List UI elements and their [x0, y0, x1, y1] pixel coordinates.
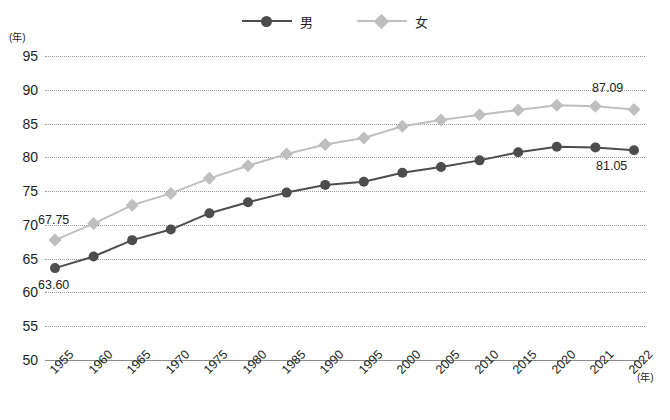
legend-item-male: 男 — [242, 12, 314, 31]
y-axis-tick-label: 50 — [8, 352, 38, 368]
circle-marker-icon — [261, 16, 272, 27]
gridline — [45, 90, 645, 91]
y-axis-tick-label: 75 — [8, 183, 38, 199]
legend-label-male: 男 — [300, 12, 314, 31]
gridline — [45, 292, 645, 293]
female-last-value-label: 87.09 — [592, 81, 623, 95]
gridline — [45, 56, 645, 57]
legend-swatch-male — [242, 14, 292, 28]
gridline — [45, 259, 645, 260]
diamond-marker-icon — [374, 14, 390, 30]
male-last-value-label: 81.05 — [596, 159, 627, 173]
legend-item-female: 女 — [357, 12, 429, 31]
male-first-value-label: 63.60 — [38, 278, 69, 292]
y-axis-tick-label: 55 — [8, 318, 38, 334]
gridline — [45, 326, 645, 327]
gridline — [45, 124, 645, 125]
y-axis-tick-label: 85 — [8, 116, 38, 132]
female-first-value-label: 67.75 — [38, 213, 69, 227]
y-axis-unit-label: (年) — [9, 29, 26, 44]
gridline — [45, 225, 645, 226]
y-axis-tick-label: 70 — [8, 217, 38, 233]
y-axis-tick-label: 80 — [8, 149, 38, 165]
life-expectancy-chart: 男 女 (年) (年) 50556065707580859095 1955196… — [0, 0, 670, 420]
y-axis-tick-label: 60 — [8, 284, 38, 300]
plot-area — [45, 56, 645, 360]
chart-legend: 男 女 — [0, 8, 670, 34]
y-axis-tick-label: 90 — [8, 82, 38, 98]
gridline — [45, 157, 645, 158]
y-axis-tick-label: 65 — [8, 251, 38, 267]
gridline — [45, 191, 645, 192]
legend-swatch-female — [357, 14, 407, 28]
y-axis-tick-label: 95 — [8, 48, 38, 64]
legend-label-female: 女 — [415, 12, 429, 31]
